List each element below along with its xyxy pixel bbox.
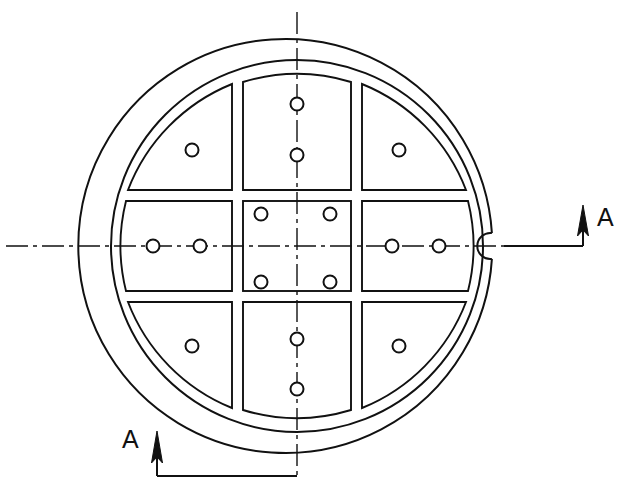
hole — [393, 340, 406, 353]
hole — [291, 149, 304, 162]
panel-top-right — [362, 84, 466, 190]
hole — [255, 276, 268, 289]
cover-plate-drawing — [0, 0, 641, 501]
hole — [291, 333, 304, 346]
hole — [386, 240, 399, 253]
drawing-page: A A — [0, 0, 641, 501]
hole — [393, 144, 406, 157]
section-label-a-bottom: A — [122, 427, 139, 452]
panel-bottom-left — [128, 302, 232, 408]
hole — [291, 98, 304, 111]
hole — [291, 383, 304, 396]
hole — [433, 240, 446, 253]
hole — [186, 340, 199, 353]
hole — [186, 144, 199, 157]
section-label-a-right: A — [597, 205, 614, 230]
panel-bottom-right — [362, 302, 466, 408]
hole — [147, 240, 160, 253]
hole — [324, 276, 337, 289]
hole — [255, 208, 268, 221]
panel-top-left — [128, 84, 232, 190]
hole — [324, 208, 337, 221]
hole — [194, 240, 207, 253]
section-mark-right — [504, 205, 589, 246]
